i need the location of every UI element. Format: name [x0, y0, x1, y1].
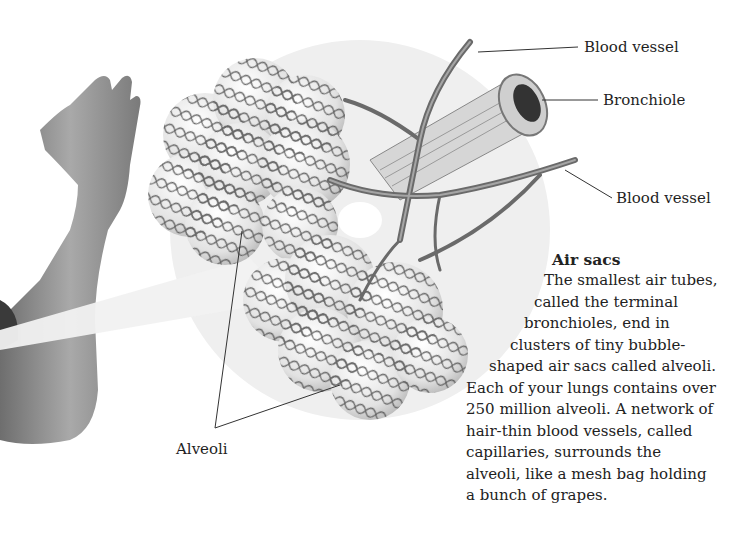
label-blood-vessel-bottom: Blood vessel [616, 189, 711, 207]
label-bronchiole: Bronchiole [603, 91, 685, 109]
arm-image [0, 76, 141, 444]
sidebar-title: Air sacs [552, 250, 722, 270]
air-sacs-sidebar: Air sacs The smallest air tubes, called … [462, 250, 722, 507]
label-alveoli: Alveoli [176, 440, 228, 458]
sidebar-line: capillaries, surrounds the [462, 442, 722, 464]
sidebar-line: alveoli, like a mesh bag holding [462, 464, 722, 486]
sidebar-line: called the terminal [462, 292, 722, 314]
sidebar-line: hair-thin blood vessels, called [462, 421, 722, 443]
sidebar-line: 250 million alveoli. A network of [462, 399, 722, 421]
sidebar-line: The smallest air tubes, [462, 270, 722, 292]
sidebar-line: shaped air sacs called alveoli. [462, 356, 722, 378]
label-blood-vessel-top: Blood vessel [584, 38, 679, 56]
sidebar-line: clusters of tiny bubble- [462, 335, 722, 357]
sidebar-line: a bunch of grapes. [462, 485, 722, 507]
sidebar-line: Each of your lungs contains over [462, 378, 722, 400]
sidebar-line: bronchioles, end in [462, 313, 722, 335]
